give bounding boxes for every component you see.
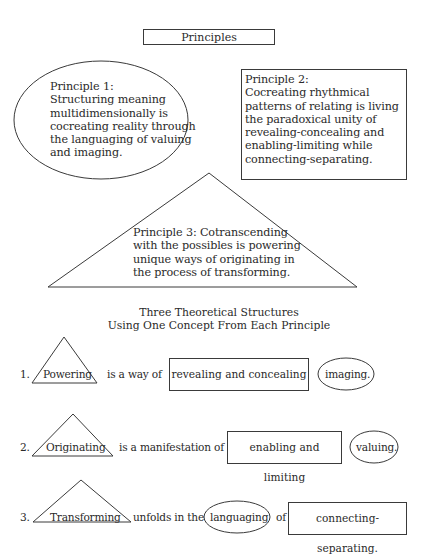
- principle-2-line: enabling-limiting while: [245, 139, 399, 152]
- principle-3-line: unique ways of originating in: [133, 253, 301, 266]
- structure-1-rectangle-concept: revealing and concealing: [172, 368, 307, 380]
- principle-2-line: Cocreating rhythmical: [245, 86, 399, 99]
- principles-title: Principles: [181, 31, 237, 44]
- principle-1-line: Structuring meaning: [50, 93, 196, 106]
- structure-1-rectangle: revealing and concealing: [169, 358, 309, 391]
- structure-3-rectangle: connecting-separating.: [288, 502, 407, 535]
- structure-2-triangle-concept: Originating: [46, 441, 106, 453]
- structure-3-connector-2: of: [276, 511, 286, 523]
- principle-2-line: the paradoxical unity of: [245, 113, 399, 126]
- principle-2-line: revealing-concealing and: [245, 126, 399, 139]
- principle-1-line: multidimensionally is: [50, 107, 196, 120]
- structure-1-ellipse-concept: imaging.: [325, 368, 370, 380]
- structure-1-connector: is a way of: [107, 368, 162, 380]
- structure-1-triangle-concept: Powering: [43, 368, 92, 380]
- principle-2-line: patterns of relating is living: [245, 100, 399, 113]
- structure-3-number: 3.: [20, 511, 30, 523]
- principle-1-label: Principle 1:: [50, 80, 196, 93]
- principle-2-line: connecting-separating.: [245, 153, 399, 166]
- principle-1-text: Principle 1: Structuring meaning multidi…: [50, 80, 196, 160]
- structure-2-rectangle: enabling and limiting: [227, 431, 342, 464]
- principle-3-text: Principle 3: Cotranscending with the pos…: [133, 226, 301, 279]
- structure-2-connector: is a manifestation of: [119, 441, 224, 453]
- principle-1-line: cocreating reality through: [50, 120, 196, 133]
- principle-3-line: Principle 3: Cotranscending: [133, 226, 301, 239]
- structures-heading: Three Theoretical Structures Using One C…: [0, 306, 424, 332]
- structure-3-ellipse-concept: languaging: [210, 511, 268, 523]
- structure-2-number: 2.: [20, 441, 30, 453]
- structures-heading-line2: Using One Concept From Each Principle: [0, 319, 424, 332]
- structure-3-rectangle-concept: connecting-separating.: [316, 512, 379, 554]
- structure-1-number: 1.: [20, 368, 30, 380]
- principle-3-line: with the possibles is powering: [133, 239, 301, 252]
- principle-2-label: Principle 2:: [245, 73, 399, 86]
- principle-3-line: the process of transforming.: [133, 266, 301, 279]
- principle-2-text: Principle 2: Cocreating rhythmical patte…: [245, 73, 399, 166]
- principle-1-line: the languaging of valuing: [50, 133, 196, 146]
- structure-3-triangle-concept: Transforming: [50, 511, 121, 523]
- structure-3-connector: unfolds in the: [133, 511, 204, 523]
- principles-title-box: Principles: [143, 29, 275, 45]
- principle-1-line: and imaging.: [50, 146, 196, 159]
- structures-heading-line1: Three Theoretical Structures: [0, 306, 424, 319]
- structure-2-ellipse-concept: valuing.: [356, 441, 397, 453]
